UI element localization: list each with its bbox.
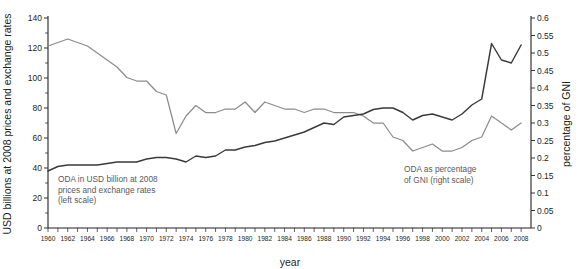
left-tick-label: 60	[33, 133, 43, 143]
x-tick-label: 2004	[474, 235, 489, 242]
oda-usd-annotation: ODA in USD billion at 2008	[58, 174, 158, 184]
oda-usd-annotation: prices and exchange rates	[58, 185, 155, 195]
right-axis-title: percentage of GNI	[560, 81, 572, 167]
x-axis-tick-labels: 1960196219641966196819701972197419761978…	[41, 235, 529, 242]
x-tick-label: 1986	[297, 235, 312, 242]
left-tick-label: 120	[28, 43, 42, 53]
x-tick-label: 1978	[218, 235, 233, 242]
left-tick-label: 20	[33, 193, 43, 203]
series-line-oda-percentage-gni	[48, 39, 521, 151]
left-tick-label: 0	[37, 223, 42, 233]
x-tick-label: 1976	[198, 235, 213, 242]
x-axis-title: year	[280, 256, 301, 268]
series-line-oda-usd-billion	[48, 44, 521, 172]
x-tick-label: 2002	[455, 235, 470, 242]
right-tick-label: 0.4	[537, 83, 549, 93]
left-tick-label: 100	[28, 73, 42, 83]
x-axis-tickmarks	[48, 228, 521, 232]
left-tick-label: 140	[28, 13, 42, 23]
x-tick-label: 2006	[494, 235, 509, 242]
oda-usd-annotation: (left scale)	[58, 195, 97, 205]
x-tick-label: 1988	[317, 235, 332, 242]
right-tick-label: 0	[537, 223, 542, 233]
chart-annotations: ODA in USD billion at 2008prices and exc…	[58, 164, 477, 205]
right-tick-label: 0.1	[537, 188, 549, 198]
oda-dual-axis-line-chart: 020406080100120140 00.050.10.150.20.250.…	[0, 0, 580, 269]
right-tick-label: 0.15	[537, 171, 554, 181]
chart-container: 020406080100120140 00.050.10.150.20.250.…	[0, 0, 580, 269]
x-tick-label: 2000	[435, 235, 450, 242]
x-tick-label: 1984	[277, 235, 292, 242]
right-tick-label: 0.6	[537, 13, 549, 23]
x-tick-label: 1992	[356, 235, 371, 242]
right-tick-label: 0.5	[537, 48, 549, 58]
right-tick-label: 0.3	[537, 118, 549, 128]
x-tick-label: 1964	[80, 235, 95, 242]
left-axis-tick-labels: 020406080100120140	[28, 13, 42, 233]
left-axis-tickmarks	[44, 18, 48, 228]
x-tick-label: 1980	[238, 235, 253, 242]
x-tick-label: 1996	[396, 235, 411, 242]
right-tick-label: 0.25	[537, 136, 554, 146]
x-tick-label: 1970	[139, 235, 154, 242]
x-tick-label: 2008	[514, 235, 529, 242]
right-tick-label: 0.05	[537, 206, 554, 216]
x-tick-label: 1974	[179, 235, 194, 242]
x-tick-label: 1960	[41, 235, 56, 242]
x-tick-label: 1966	[100, 235, 115, 242]
x-tick-label: 1972	[159, 235, 174, 242]
right-tick-label: 0.35	[537, 101, 554, 111]
left-tick-label: 80	[33, 103, 43, 113]
left-tick-label: 40	[33, 163, 43, 173]
oda-gni-annotation: ODA as percentage	[404, 164, 477, 174]
x-tick-label: 1982	[258, 235, 273, 242]
x-tick-label: 1994	[376, 235, 391, 242]
right-axis-tickmarks	[531, 18, 535, 228]
x-tick-label: 1990	[336, 235, 351, 242]
right-tick-label: 0.2	[537, 153, 549, 163]
right-tick-label: 0.55	[537, 31, 554, 41]
oda-gni-annotation: of GNI (right scale)	[404, 175, 474, 185]
right-axis-tick-labels: 00.050.10.150.20.250.30.350.40.450.50.55…	[537, 13, 554, 233]
x-tick-label: 1962	[60, 235, 75, 242]
x-tick-label: 1968	[120, 235, 135, 242]
x-tick-label: 1998	[415, 235, 430, 242]
right-tick-label: 0.45	[537, 66, 554, 76]
left-axis-title: USD billions at 2008 prices and exchange…	[1, 13, 13, 234]
